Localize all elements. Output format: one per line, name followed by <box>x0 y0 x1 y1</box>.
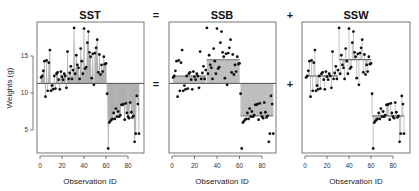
between-group-area <box>241 83 274 116</box>
data-point <box>309 95 312 98</box>
data-point <box>377 112 380 115</box>
data-point <box>378 118 381 121</box>
data-point <box>177 59 180 62</box>
data-point <box>266 115 269 118</box>
data-point <box>240 147 243 150</box>
data-point <box>97 71 100 74</box>
data-point <box>246 112 249 115</box>
data-point <box>267 140 270 143</box>
data-point <box>200 78 203 81</box>
data-point <box>60 70 63 73</box>
data-point <box>173 75 176 78</box>
data-point <box>363 53 366 56</box>
data-point <box>66 50 69 53</box>
data-point <box>77 66 80 69</box>
data-point <box>213 60 216 63</box>
data-point <box>46 89 49 92</box>
data-point <box>355 77 358 80</box>
data-point <box>128 117 131 120</box>
data-point <box>210 66 213 69</box>
data-point <box>397 115 400 118</box>
data-point <box>306 75 309 78</box>
data-point <box>231 53 234 56</box>
data-point <box>126 112 129 115</box>
data-point <box>198 86 201 89</box>
data-point <box>69 65 72 68</box>
data-point <box>95 46 98 49</box>
data-point <box>49 49 52 52</box>
data-point <box>65 86 68 89</box>
data-point <box>232 73 235 76</box>
data-point <box>359 52 362 55</box>
data-point <box>370 62 373 65</box>
y-tick-label: 10 <box>21 89 29 96</box>
data-point <box>90 77 93 80</box>
data-point <box>96 38 99 41</box>
data-point <box>325 70 328 73</box>
data-point <box>365 63 368 66</box>
data-point <box>230 71 233 74</box>
data-point <box>119 114 122 117</box>
x-tick-label: 40 <box>80 162 88 169</box>
data-point <box>86 41 89 44</box>
data-point <box>212 47 215 50</box>
data-point <box>73 26 76 29</box>
data-point <box>323 88 326 91</box>
data-point <box>174 69 177 72</box>
data-point <box>247 118 250 121</box>
data-point <box>107 147 110 150</box>
data-point <box>391 112 394 115</box>
panel-title-ssw: SSW <box>343 9 369 21</box>
data-point <box>342 66 345 69</box>
data-point <box>214 72 217 75</box>
data-point <box>47 61 50 64</box>
data-point <box>98 53 101 56</box>
data-point <box>398 140 401 143</box>
data-point <box>186 87 189 90</box>
data-point <box>326 75 329 78</box>
x-tick-label: 60 <box>236 162 244 169</box>
data-point <box>394 101 397 104</box>
data-point <box>94 52 97 55</box>
anova-decomposition-figure: SST SSB SSW = = + + Weights (g) Observat… <box>0 0 419 191</box>
data-point <box>112 112 115 115</box>
data-point <box>319 87 322 90</box>
data-point <box>316 84 319 87</box>
data-point <box>219 41 222 44</box>
data-point <box>222 55 225 58</box>
x-tick-label: 80 <box>258 162 266 169</box>
panel-title-sst: SST <box>79 9 101 21</box>
data-point <box>58 88 61 91</box>
data-point <box>228 46 231 49</box>
data-point <box>227 52 230 55</box>
data-point <box>56 71 59 74</box>
data-point <box>352 30 355 33</box>
x-tick-label: 0 <box>38 162 42 169</box>
data-point <box>207 72 210 75</box>
data-point <box>138 132 141 135</box>
x-tick-label: 40 <box>345 162 353 169</box>
data-point <box>132 115 135 118</box>
x-tick-label: 60 <box>102 162 110 169</box>
data-point <box>99 73 102 76</box>
data-point <box>329 75 332 78</box>
data-point <box>400 95 403 98</box>
data-point <box>193 75 196 78</box>
data-point <box>189 71 192 74</box>
data-point <box>334 65 337 68</box>
data-point <box>101 70 104 73</box>
data-point <box>89 55 92 58</box>
data-point <box>51 84 54 87</box>
data-point <box>61 75 64 78</box>
y-axis-label: Weights (g) <box>5 67 14 108</box>
x-axis-label-ssb: Observation ID <box>195 177 249 186</box>
x-tick-label: 80 <box>124 162 132 169</box>
x-tick-label: 0 <box>303 162 307 169</box>
data-point <box>364 73 367 76</box>
data-point <box>321 71 324 74</box>
plus-operator-middle: + <box>287 78 293 90</box>
data-point <box>358 83 361 86</box>
data-point <box>76 63 79 66</box>
data-point <box>183 84 186 87</box>
data-point <box>192 70 195 73</box>
